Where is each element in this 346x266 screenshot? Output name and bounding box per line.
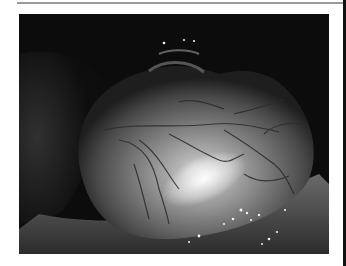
endoscopic-photo — [19, 14, 329, 254]
top-rule-divider — [17, 2, 346, 4]
photo-render — [19, 14, 329, 254]
